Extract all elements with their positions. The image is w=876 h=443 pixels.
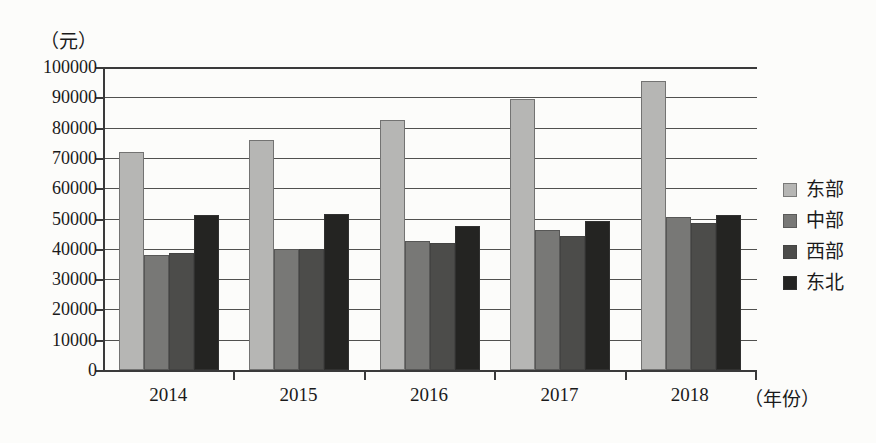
y-axis-tick [96,219,105,221]
y-axis-tick [96,158,105,160]
legend-item-label: 东北 [806,273,844,292]
bar [144,255,169,370]
bar-group [510,67,610,370]
y-axis-tick [96,309,105,311]
y-axis-tick-label: 80000 [7,117,97,138]
bar-group [249,67,349,370]
y-axis-unit-label: （元） [40,26,97,53]
y-axis-tick [96,249,105,251]
y-axis-tick [96,67,105,69]
x-axis-tick [494,370,496,380]
x-axis-tick-label: 2017 [540,384,578,406]
legend-swatch-icon [783,276,797,290]
legend-swatch-icon [783,183,797,197]
legend-item-label: 西部 [806,242,844,261]
legend-swatch-icon [783,245,797,259]
x-axis-title: （年份） [744,384,820,411]
x-axis-tick [364,370,366,380]
x-axis-tick-label: 2018 [671,384,709,406]
x-axis-tick-label: 2015 [280,384,318,406]
y-axis-tick-label: 30000 [7,269,97,290]
bar [535,230,560,370]
bar [405,241,430,370]
x-axis-tick-label: 2016 [410,384,448,406]
legend-item-label: 东部 [806,180,844,199]
legend-item[interactable]: 中部 [783,205,873,236]
bar [716,215,741,370]
bar [274,249,299,370]
y-axis-tick [96,340,105,342]
legend-swatch-icon [783,214,797,228]
legend-item[interactable]: 西部 [783,236,873,267]
y-axis-tick-label: 40000 [7,238,97,259]
bar [560,236,585,370]
grouped-bar-chart: （元） 100000900008000070000600005000040000… [0,0,876,443]
y-axis-tick-label: 100000 [7,57,97,78]
bar [324,214,349,370]
bar [691,223,716,370]
legend-item[interactable]: 东部 [783,174,873,205]
y-axis-tick [96,188,105,190]
x-axis-tick-label: 2014 [149,384,187,406]
y-axis-tick-label: 50000 [7,208,97,229]
bar [249,140,274,370]
x-axis-ticks [103,370,755,380]
y-axis-tick-label: 90000 [7,87,97,108]
x-axis-tick [233,370,235,380]
bar [380,120,405,370]
y-axis-tick [96,128,105,130]
y-axis-tick-label: 20000 [7,299,97,320]
y-axis-tick [96,97,105,99]
bar [666,217,691,370]
bar [510,99,535,370]
x-axis-tick [625,370,627,380]
bar [169,253,194,370]
y-axis-tick-label: 10000 [7,329,97,350]
bars-layer [105,67,757,370]
bar-group [119,67,219,370]
y-axis-tick-label: 0 [7,360,97,381]
legend-item-label: 中部 [806,211,844,230]
legend-item[interactable]: 东北 [783,267,873,298]
bar-group [380,67,480,370]
plot-area: 1000009000080000700006000050000400003000… [103,67,757,372]
y-axis-tick-label: 60000 [7,178,97,199]
bar-group [641,67,741,370]
y-axis-tick-label: 70000 [7,147,97,168]
bar [299,249,324,370]
bar [585,221,610,370]
legend: 东部中部西部东北 [783,174,873,298]
y-axis-tick [96,279,105,281]
bar [194,215,219,370]
bar [455,226,480,370]
bar [430,243,455,370]
bar [641,81,666,370]
x-axis-tick [755,370,757,380]
bar [119,152,144,370]
